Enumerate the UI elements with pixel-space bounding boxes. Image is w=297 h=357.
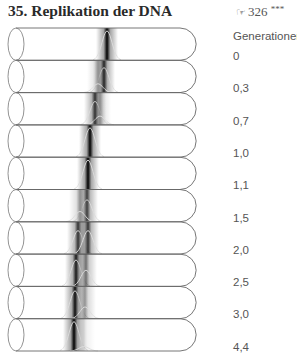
generation-label: 4,4 [233,341,249,353]
tube-outline [16,254,196,286]
dna-band [79,125,101,157]
tube [8,60,196,92]
dna-band [87,60,109,92]
dna-band [77,222,99,254]
tube [8,254,196,286]
tube-outline [16,190,196,222]
tube [8,190,196,222]
tube-opening [8,286,24,318]
tube-opening [8,28,24,60]
tube-outline [16,125,196,157]
generation-label: 1,1 [233,179,249,191]
tube-outline [16,222,196,254]
tube-outline [16,319,196,351]
tube [8,125,196,157]
generation-label: 1,5 [233,212,249,224]
tube [8,93,196,125]
generation-label: 2,0 [233,244,249,256]
dna-band [74,286,96,318]
generation-label: 0,7 [233,115,249,127]
generation-label: 0,3 [233,82,249,94]
tube-outline [16,157,196,189]
tube-opening [8,319,24,351]
tube-opening [8,254,24,286]
tube-outline [16,286,196,318]
generation-label: 2,5 [233,276,249,288]
tube [8,319,196,351]
generation-label: 3,0 [233,308,249,320]
tube [8,28,196,60]
dna-band [69,190,91,222]
generation-label: 1,0 [233,147,249,159]
tube-opening [8,222,24,254]
dna-band [96,28,118,60]
tube [8,286,196,318]
tube-opening [8,60,24,92]
tube-opening [8,190,24,222]
dna-band [89,93,111,125]
dna-band [77,157,99,189]
tube-opening [8,93,24,125]
generation-label: 0 [233,50,239,62]
tube [8,157,196,189]
centrifuge-tubes-diagram [0,0,297,357]
tube-opening [8,125,24,157]
tube-opening [8,157,24,189]
tube [8,222,196,254]
